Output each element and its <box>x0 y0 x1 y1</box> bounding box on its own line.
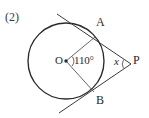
tangent-line-upper <box>57 14 131 64</box>
tangent-line-lower <box>59 64 131 113</box>
problem-number-label: (2) <box>5 11 19 23</box>
point-label-b: B <box>96 94 104 106</box>
point-label-p: P <box>133 54 140 66</box>
unknown-angle-label-x: x <box>114 56 119 67</box>
point-label-o: O <box>55 55 63 66</box>
central-angle-label: 110° <box>74 55 94 66</box>
center-point-dot <box>64 59 67 62</box>
point-label-a: A <box>96 16 105 28</box>
geometry-figure: (2) O 110° A B P x <box>0 0 149 118</box>
angle-x-arc <box>122 60 123 69</box>
